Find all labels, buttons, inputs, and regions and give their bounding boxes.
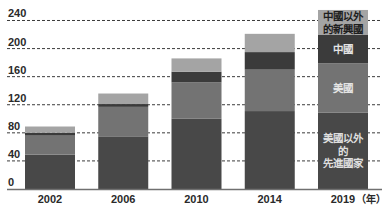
bar-segment: [245, 70, 295, 111]
series-label: 先進國家: [323, 157, 364, 169]
bar-segment: [25, 133, 75, 136]
stacked-bar-chart: 04080120160200240 20022006201020142019（年…: [0, 0, 388, 211]
series-label: 中國以外: [323, 10, 364, 22]
series-label: 的: [338, 145, 348, 157]
bar-segment: [245, 52, 295, 70]
bar-segment: [25, 127, 75, 133]
bar-segment: [172, 72, 222, 83]
x-tick-label: 2002: [38, 193, 62, 205]
bars: [25, 10, 368, 189]
y-tick-label: 80: [8, 120, 20, 132]
chart-container: 04080120160200240 20022006201020142019（年…: [0, 0, 388, 211]
x-tick-label: 2010: [184, 193, 208, 205]
bar-segment: [172, 82, 222, 119]
bar-segment: [25, 136, 75, 155]
bar-2006: [98, 94, 148, 189]
bar-segment: [98, 94, 148, 105]
bar-segment: [172, 119, 222, 189]
bar-2014: [245, 34, 295, 189]
bar-segment: [98, 136, 148, 189]
bar-2010: [172, 58, 222, 189]
y-tick-label: 160: [8, 64, 26, 76]
series-label: 的新興國: [323, 23, 363, 35]
x-axis-labels: 20022006201020142019（年）: [38, 193, 386, 205]
y-tick-label: 240: [8, 7, 26, 19]
bar-segment: [172, 58, 222, 71]
y-tick-label: 120: [8, 92, 26, 104]
y-tick-label: 40: [8, 148, 20, 160]
bar-segment: [245, 111, 295, 189]
x-tick-label: 2014: [258, 193, 283, 205]
series-label: 美國以外: [323, 132, 364, 144]
bar-segment: [98, 107, 148, 136]
x-tick-label: 2006: [111, 193, 135, 205]
bar-2002: [25, 127, 75, 189]
x-unit-label: （年）: [356, 193, 386, 205]
x-tick-label: 2019: [331, 193, 355, 205]
bar-segment: [25, 155, 75, 189]
y-tick-label: 200: [8, 36, 26, 48]
series-label: 美國: [333, 82, 353, 94]
bar-segment: [98, 104, 148, 107]
y-tick-label: 0: [8, 176, 14, 188]
bar-segment: [245, 34, 295, 52]
series-label: 中國: [333, 43, 353, 55]
